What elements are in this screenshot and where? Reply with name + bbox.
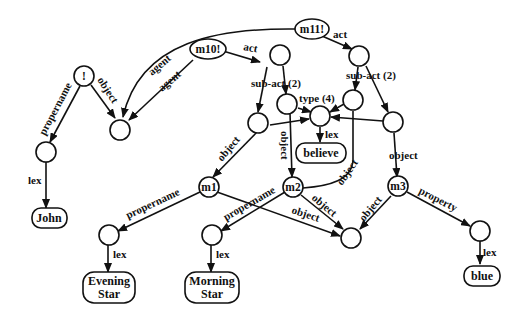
- lex-box-john: John: [32, 208, 67, 228]
- label-subact-m11: sub-act (2): [346, 69, 396, 82]
- node-believe-base: [310, 106, 330, 126]
- svg-text:believe: believe: [303, 146, 339, 160]
- node-m10: m10!: [190, 39, 226, 59]
- edge-type-d: [331, 117, 383, 121]
- label-act-m10: act: [243, 40, 259, 54]
- svg-text:Evening: Evening: [88, 274, 130, 288]
- node-m3: m3: [388, 176, 408, 196]
- label-act-m11: act: [333, 28, 347, 40]
- node-m11: m11!: [295, 19, 329, 39]
- lex-box-blue: blue: [464, 266, 500, 286]
- label-object-m1: object: [214, 133, 242, 163]
- node-object-m11: [383, 112, 403, 132]
- lex-box-evening-star: Evening Star: [83, 272, 135, 303]
- edge-type-a: [298, 108, 311, 112]
- node-subact-mid: [277, 94, 297, 114]
- node-agent: [110, 120, 130, 140]
- label-lex-morning: lex: [216, 248, 230, 260]
- node-shared-object: [341, 228, 361, 248]
- node-bang: !: [74, 66, 94, 86]
- lex-box-believe: believe: [296, 143, 346, 163]
- label-lex-blue: lex: [483, 246, 497, 258]
- node-subact-left: [248, 113, 268, 133]
- node-subact-m11: [343, 90, 363, 110]
- svg-text:m1: m1: [201, 181, 217, 193]
- node-evening-base: [99, 225, 119, 245]
- node-act-m10: [270, 45, 290, 65]
- node-m1: m1: [199, 177, 219, 197]
- svg-text:Star: Star: [98, 287, 121, 301]
- label-lex-john: lex: [28, 174, 42, 186]
- label-lex-evening: lex: [113, 248, 127, 260]
- semantic-network-diagram: ! m10! m11! m1 m2 m3 John believe: [0, 0, 523, 315]
- node-morning-base: [202, 225, 222, 245]
- label-object-m2: object: [279, 131, 291, 160]
- svg-text:Star: Star: [201, 287, 224, 301]
- node-act-m11: [349, 46, 369, 66]
- node-john-base: [36, 142, 56, 162]
- svg-text:John: John: [36, 211, 62, 225]
- label-propername-m2: propername: [221, 183, 277, 222]
- svg-text:m10!: m10!: [196, 43, 221, 55]
- label-type: type (4): [299, 92, 335, 105]
- node-blue-base: [470, 221, 490, 241]
- node-m2: m2: [283, 177, 303, 197]
- edge-type-b: [330, 104, 344, 112]
- svg-text:blue: blue: [471, 269, 494, 283]
- svg-text:m11!: m11!: [300, 23, 324, 35]
- label-object-bang: object: [95, 75, 121, 106]
- svg-text:Morning: Morning: [189, 274, 234, 288]
- edge-subact-m10-a: [258, 67, 267, 112]
- label-lex-believe: lex: [325, 128, 339, 140]
- lex-box-morning-star: Morning Star: [185, 272, 239, 303]
- svg-text:m3: m3: [390, 180, 406, 192]
- label-object-m11: object: [389, 149, 418, 161]
- svg-text:m2: m2: [285, 181, 301, 193]
- label-propername-m1: propername: [124, 185, 182, 220]
- svg-text:!: !: [82, 70, 86, 82]
- label-subact-m10: sub-act (2): [251, 77, 301, 90]
